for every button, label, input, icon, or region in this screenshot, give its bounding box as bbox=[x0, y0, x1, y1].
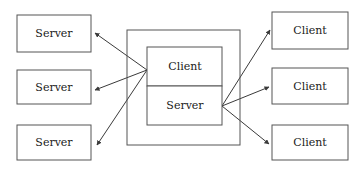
node-client-2-label: Client bbox=[293, 80, 327, 93]
node-server-2[interactable]: Server bbox=[17, 70, 91, 104]
center-server-label: Server bbox=[166, 99, 204, 112]
edge-hub-to-client-1 bbox=[222, 30, 270, 106]
left-server-group: Server Server Server bbox=[17, 15, 91, 160]
edge-hub-to-client-3 bbox=[222, 106, 269, 144]
node-server-3-label: Server bbox=[35, 136, 73, 149]
architecture-diagram: Server Server Server Client Server bbox=[0, 0, 364, 173]
node-client-2[interactable]: Client bbox=[272, 68, 348, 104]
edge-hub-to-client-2 bbox=[222, 87, 269, 106]
edge-hub-to-server-2 bbox=[95, 70, 147, 90]
node-client-3[interactable]: Client bbox=[272, 125, 348, 160]
center-client-label: Client bbox=[168, 60, 202, 73]
node-client-3-label: Client bbox=[293, 136, 327, 149]
center-inner-container[interactable]: Client Server bbox=[147, 47, 222, 125]
node-client-1[interactable]: Client bbox=[272, 12, 348, 49]
node-server-3[interactable]: Server bbox=[17, 125, 91, 160]
edge-hub-to-server-1 bbox=[95, 33, 147, 70]
diagram-canvas: Server Server Server Client Server bbox=[0, 0, 364, 173]
edge-hub-to-server-3 bbox=[97, 70, 147, 145]
node-client-1-label: Client bbox=[293, 24, 327, 37]
center-node-group: Client Server bbox=[127, 30, 240, 145]
node-server-1-label: Server bbox=[35, 27, 73, 40]
right-client-group: Client Client Client bbox=[272, 12, 348, 160]
node-server-2-label: Server bbox=[35, 81, 73, 94]
node-server-1[interactable]: Server bbox=[17, 15, 91, 52]
